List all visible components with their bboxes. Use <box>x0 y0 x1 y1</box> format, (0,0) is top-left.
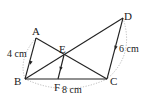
parallel-arrow-ab-icon <box>29 61 32 65</box>
geometry-diagram: A B C D E F 4 cm 6 cm 8 cm <box>0 0 150 96</box>
label-c: C <box>110 75 117 87</box>
label-a: A <box>32 25 40 37</box>
label-f: F <box>54 81 60 93</box>
measure-dc: 6 cm <box>119 43 139 54</box>
measure-bc: 8 cm <box>62 84 82 95</box>
label-e: E <box>59 43 66 55</box>
measure-ab: 4 cm <box>7 48 27 59</box>
label-b: B <box>14 75 21 87</box>
segment-ac <box>36 38 107 79</box>
label-d: D <box>124 10 132 22</box>
